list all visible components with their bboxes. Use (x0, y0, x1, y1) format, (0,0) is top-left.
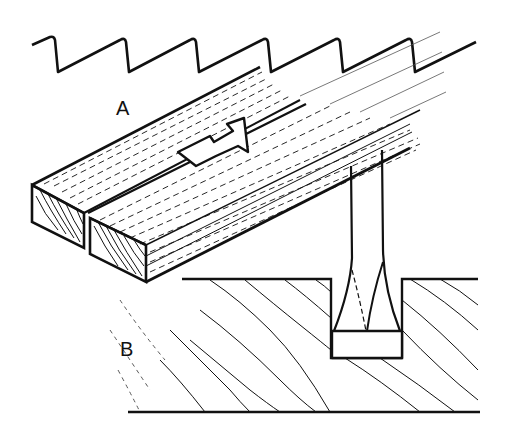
label-b: B (120, 338, 133, 361)
label-a: A (116, 97, 129, 120)
saw-and-chisel-illustration (0, 0, 514, 436)
board-b (110, 279, 480, 412)
illustration-canvas: A B (0, 0, 514, 436)
